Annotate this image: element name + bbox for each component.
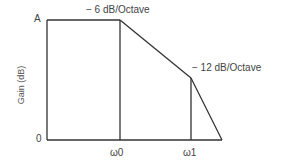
x-tick-w1: ω1 <box>183 148 196 158</box>
gain-response-diagram <box>0 0 281 161</box>
slope2-annotation: − 12 dB/Octave <box>192 63 261 73</box>
slope1-annotation: − 6 dB/Octave <box>86 5 150 15</box>
y-tick-top: A <box>34 14 41 24</box>
slope-6db-line <box>120 20 191 78</box>
y-axis-label: Gain (dB) <box>16 66 26 105</box>
x-tick-w0: ω0 <box>110 148 123 158</box>
y-tick-bottom: 0 <box>36 134 42 144</box>
slope-12db-line <box>191 78 222 140</box>
